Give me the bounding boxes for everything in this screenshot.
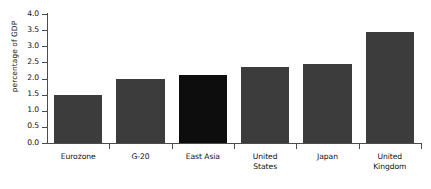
category-label: G-20 <box>109 152 171 162</box>
x-tick <box>234 144 235 149</box>
bar-united-states <box>241 67 290 143</box>
category-label-line: States <box>234 162 296 172</box>
bar-eurozone <box>54 95 103 143</box>
category-label: East Asia <box>172 152 234 162</box>
x-tick <box>359 144 360 149</box>
category-label-line: Japan <box>296 152 358 162</box>
y-tick: 0.0 <box>42 143 47 144</box>
y-axis-title: percentage of GDP <box>10 0 19 117</box>
category-label: Eurozone <box>47 152 109 162</box>
x-tick <box>296 144 297 149</box>
x-tick <box>109 144 110 149</box>
y-tick-label: 0.0 <box>27 138 39 147</box>
y-tick-label: 1.5 <box>27 89 39 98</box>
y-tick-label: 1.0 <box>27 105 39 114</box>
y-tick-label: 0.5 <box>27 121 39 130</box>
category-label-line: Kingdom <box>359 162 421 172</box>
category-label: Japan <box>296 152 358 162</box>
category-label-line: United <box>234 152 296 162</box>
category-label-line: East Asia <box>172 152 234 162</box>
bar-chart: percentage of GDP 0.00.51.01.52.02.53.03… <box>0 0 431 189</box>
category-label-line: Eurozone <box>47 152 109 162</box>
bar-japan <box>303 64 352 143</box>
category-label: UnitedKingdom <box>359 152 421 171</box>
y-tick-label: 2.0 <box>27 73 39 82</box>
bar-united-kingdom <box>366 32 415 143</box>
category-label: UnitedStates <box>234 152 296 171</box>
y-tick-label: 2.5 <box>27 57 39 66</box>
bar-g-20 <box>116 79 165 144</box>
category-label-line: G-20 <box>109 152 171 162</box>
bar-east-asia <box>179 75 228 143</box>
category-label-line: United <box>359 152 421 162</box>
plot-area <box>47 14 421 143</box>
x-tick <box>421 144 422 149</box>
x-tick <box>172 144 173 149</box>
y-tick-label: 4.0 <box>27 9 39 18</box>
y-tick-label: 3.5 <box>27 25 39 34</box>
y-tick-label: 3.0 <box>27 41 39 50</box>
